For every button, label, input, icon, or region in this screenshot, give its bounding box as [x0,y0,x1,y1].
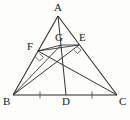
vertex-label-F: F [27,41,33,52]
vertex-label-G: G [55,32,63,43]
right-angle-at-F [36,54,44,62]
vertex-label-E: E [79,32,86,43]
geometry-figure: A B C D E F G [0,0,130,120]
cevian-CF [38,51,117,95]
vertex-label-B: B [3,96,10,107]
side-AC [58,16,117,95]
vertex-label-C: C [119,96,126,107]
vertex-label-D: D [62,96,70,107]
cevian-BE [13,45,79,95]
vertex-label-A: A [54,2,62,13]
